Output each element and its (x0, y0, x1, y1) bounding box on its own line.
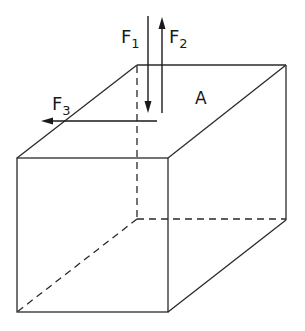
bottom-right-diagonal-edge (168, 220, 286, 312)
label-f3: F3 (52, 93, 71, 118)
arrow-left-icon (41, 118, 53, 125)
label-f2: F2 (169, 26, 188, 51)
front-face (17, 158, 168, 312)
label-f1: F1 (121, 26, 140, 51)
top-left-diagonal-edge (17, 65, 137, 158)
top-right-diagonal-edge (168, 65, 286, 158)
force-f3-arrow (41, 118, 157, 125)
arrow-down-icon (145, 101, 152, 113)
label-face-a: A (195, 88, 207, 108)
box-force-diagram: F1 F2 F3 A (0, 0, 305, 331)
arrow-up-icon (159, 17, 166, 29)
hidden-bottom-diagonal-edge (17, 219, 137, 312)
